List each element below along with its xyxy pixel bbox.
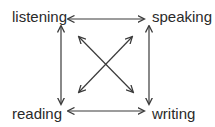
skills-diagram: listening speaking reading writing <box>0 0 215 127</box>
arrows-layer <box>0 0 215 127</box>
